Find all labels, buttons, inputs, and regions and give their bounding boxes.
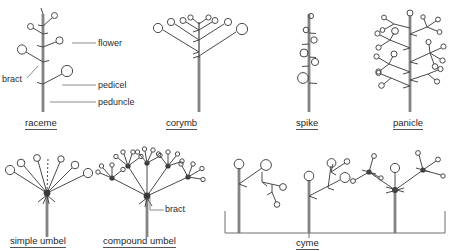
label-flower: flower — [98, 38, 122, 48]
label-peduncle: peduncle — [98, 97, 135, 107]
label-pedicel: pedicel — [98, 80, 127, 90]
cyme-figure-3 — [351, 151, 446, 233]
type-name-raceme: raceme — [25, 117, 57, 130]
spike-figure — [298, 13, 319, 112]
type-name-compound-umbel: compound umbel — [103, 235, 176, 248]
label-bract-compound: bract — [165, 204, 185, 214]
type-name-cyme: cyme — [296, 237, 319, 250]
diagram-canvas — [0, 0, 457, 251]
corymb-figure — [153, 15, 247, 112]
cyme-bracket — [225, 211, 445, 238]
type-name-corymb: corymb — [166, 117, 197, 130]
type-name-simple-umbel: simple umbel — [10, 235, 66, 248]
type-name-spike: spike — [296, 117, 318, 130]
panicle-figure — [374, 10, 446, 112]
label-bract: bract — [2, 74, 22, 84]
compound-umbel-figure — [96, 147, 205, 237]
inflorescence-diagram: flower pedicel peduncle bract bract race… — [0, 0, 457, 251]
raceme-figure — [17, 8, 96, 112]
type-name-panicle: panicle — [393, 117, 423, 130]
cyme-figure-2 — [304, 159, 350, 233]
cyme-figure-1 — [234, 159, 286, 233]
simple-umbel-figure — [5, 155, 92, 237]
